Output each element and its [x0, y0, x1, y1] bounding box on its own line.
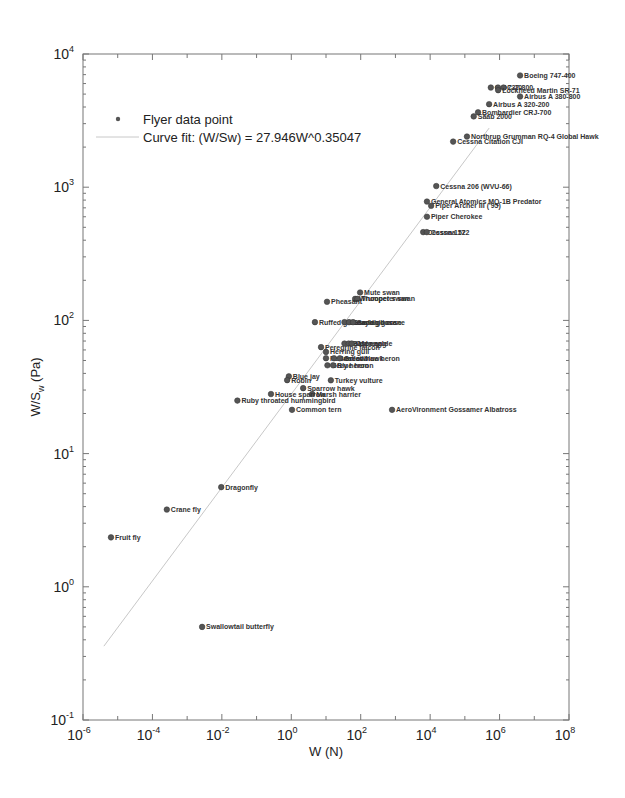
data-point-label: Dragonfly: [225, 484, 258, 492]
data-point-marker-icon: [337, 355, 343, 361]
data-point: Cessna 172: [424, 229, 469, 236]
data-point-marker-icon: [325, 363, 331, 369]
data-point-label: Great blue heron: [344, 355, 400, 362]
data-point-marker-icon: [324, 299, 330, 305]
data-point-marker-icon: [428, 203, 434, 209]
x-tick-label: 102: [346, 725, 367, 743]
data-point-label: Cessna Citation CJI: [457, 138, 523, 145]
data-point: Piper Cherokee: [424, 213, 482, 221]
data-point-marker-icon: [450, 139, 456, 145]
data-point: Sandhill crane: [350, 319, 405, 326]
data-point-label: Swallowtail butterfly: [206, 623, 274, 631]
y-axis-title-unit: (Pa): [28, 357, 43, 385]
data-point-marker-icon: [318, 344, 324, 350]
data-point-marker-icon: [389, 407, 395, 413]
data-point-marker-icon: [424, 199, 430, 205]
x-tick-label: 104: [416, 725, 437, 743]
data-point: Crane fly: [164, 506, 201, 514]
data-point-marker-icon: [331, 355, 337, 361]
data-point-marker-icon: [323, 349, 329, 355]
data-point: Piper Archer III ('95): [428, 202, 500, 210]
y-tick-label: 100: [53, 577, 74, 595]
data-point-marker-icon: [312, 319, 318, 325]
data-point: Boeing 747-400: [517, 72, 575, 80]
x-axis-title: W (N): [309, 744, 343, 759]
scatter-chart: 10-610-410-210010210410610810-1100101102…: [0, 0, 625, 798]
data-point-label: Airbus A 320-200: [493, 101, 549, 108]
legend-marker-label: Flyer data point: [143, 112, 233, 127]
y-tick-label: 102: [53, 310, 74, 328]
data-point: Ruby throated hummingbird: [235, 397, 336, 405]
data-point-label: Cessna 206 (WVU-66): [440, 183, 512, 191]
data-point-marker-icon: [268, 391, 274, 397]
data-point-marker-icon: [284, 377, 290, 383]
legend-fit-label: Curve fit: (W/Sw) = 27.946W^0.35047: [143, 130, 361, 145]
data-point-marker-icon: [424, 229, 430, 235]
data-point-marker-icon: [235, 398, 241, 404]
data-point-label: Common tern: [296, 406, 342, 413]
data-point-label: Piper Archer III ('95): [435, 202, 501, 210]
y-tick-label: 103: [53, 177, 74, 195]
data-point-marker-icon: [164, 507, 170, 513]
data-point: Airbus A 380-800: [517, 93, 580, 100]
data-point-label: AeroVironment Gossamer Albatross: [396, 406, 517, 413]
data-point-label: Airbus A 380-800: [524, 93, 580, 100]
x-tick-label: 100: [277, 725, 298, 743]
data-point-label: Piper Cherokee: [431, 213, 482, 221]
data-point: Blue heron: [330, 362, 373, 369]
data-point-marker-icon: [488, 85, 494, 91]
data-points: Boeing 747-400C-5DC-10737-800Lockheed Ma…: [108, 72, 598, 631]
x-tick-label: 10-2: [206, 725, 230, 743]
data-point: Pheasant: [324, 298, 363, 305]
y-tick-label: 10-1: [50, 710, 74, 728]
data-point-marker-icon: [218, 484, 224, 490]
data-point-label: Saab 2000: [478, 113, 512, 120]
data-point-marker-icon: [486, 101, 492, 107]
data-point-marker-icon: [424, 214, 430, 220]
data-point-label: Cessna 172: [431, 229, 470, 236]
data-point-marker-icon: [471, 114, 477, 120]
data-point: Great blue heron: [337, 355, 400, 362]
data-point: Robin: [284, 377, 311, 384]
data-point-marker-icon: [108, 535, 114, 541]
legend: Flyer data point Curve fit: (W/Sw) = 27.…: [96, 112, 361, 145]
y-axis-title-main: W/S: [28, 392, 43, 417]
x-tick-label: 106: [485, 725, 506, 743]
data-point: Airbus A 320-200: [486, 101, 549, 108]
data-point-label: Boeing 747-400: [524, 72, 575, 80]
data-point: Dragonfly: [218, 484, 258, 492]
data-point: Trumpeter swan: [355, 295, 415, 303]
data-point: Saab 2000: [471, 113, 512, 120]
x-tick-label: 10-4: [137, 725, 161, 743]
data-point-label: Turkey vulture: [335, 377, 383, 385]
data-point-marker-icon: [517, 73, 523, 79]
legend-marker-icon: [116, 117, 120, 121]
data-point-label: Fruit fly: [115, 534, 141, 542]
data-point-label: Ruby throated hummingbird: [241, 397, 335, 405]
data-point-marker-icon: [323, 355, 329, 361]
data-point: Turkey vulture: [328, 377, 383, 385]
data-point-marker-icon: [328, 378, 334, 384]
data-point: Fruit fly: [108, 534, 141, 542]
y-tick-label: 101: [53, 444, 74, 462]
data-point-label: Robin: [291, 377, 311, 384]
data-point-marker-icon: [495, 87, 501, 93]
y-axis-title: W/Sw (Pa): [28, 357, 46, 416]
data-point-label: Crane fly: [171, 506, 201, 514]
data-point: AeroVironment Gossamer Albatross: [389, 406, 516, 413]
data-point-marker-icon: [350, 319, 356, 325]
data-point-marker-icon: [433, 183, 439, 189]
x-tick-label: 10-6: [67, 725, 91, 743]
data-point-label: Pheasant: [331, 298, 363, 305]
data-point: Swallowtail butterfly: [199, 623, 274, 631]
data-point-marker-icon: [289, 407, 295, 413]
svg-text:W/Sw (Pa): W/Sw (Pa): [28, 357, 46, 416]
data-point-label: Blue heron: [337, 362, 374, 369]
data-point-marker-icon: [517, 94, 523, 100]
y-tick-label: 104: [53, 44, 74, 62]
data-point-label: Trumpeter swan: [361, 295, 415, 303]
data-point: Common tern: [289, 406, 341, 413]
data-point: Cessna 206 (WVU-66): [433, 183, 511, 191]
x-tick-label: 108: [555, 725, 576, 743]
data-point-marker-icon: [199, 624, 205, 630]
